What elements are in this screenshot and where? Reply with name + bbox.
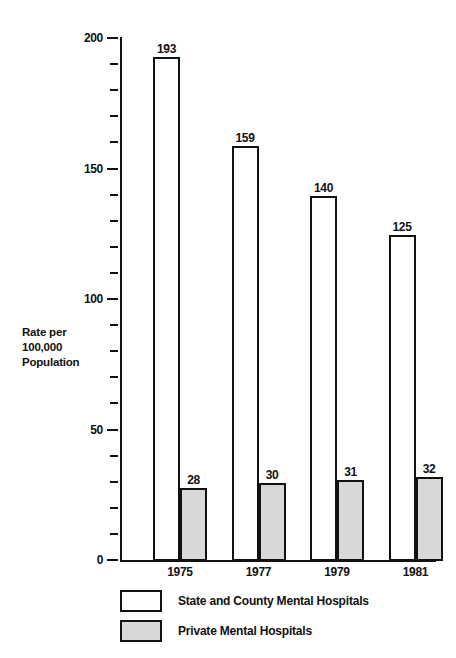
bar-value-label: 32 — [423, 462, 436, 476]
plot-area: 050100150200 Rate per100,000Population 1… — [0, 0, 456, 590]
bar-value-label: 140 — [314, 181, 333, 195]
x-axis-label-1981: 1981 — [386, 565, 446, 579]
bar-value-label: 159 — [235, 131, 254, 145]
bar-1981-series-1: 125 — [389, 235, 416, 561]
legend-label: State and County Mental Hospitals — [178, 594, 369, 608]
bar-1977-series-2: 30 — [259, 483, 286, 561]
legend-label: Private Mental Hospitals — [178, 624, 312, 638]
chart-legend: State and County Mental HospitalsPrivate… — [120, 586, 440, 646]
bar-1979-series-2: 31 — [337, 480, 364, 561]
legend-swatch-gray — [120, 620, 162, 642]
x-axis-label-1977: 1977 — [229, 565, 289, 579]
bar-value-label: 125 — [392, 220, 411, 234]
x-axis-label-1979: 1979 — [307, 565, 367, 579]
chart-page: 050100150200 Rate per100,000Population 1… — [0, 0, 456, 658]
bar-value-label: 30 — [266, 468, 279, 482]
bar-1981-series-2: 32 — [416, 477, 443, 561]
bar-value-label: 193 — [157, 42, 176, 56]
x-axis-tick-labels: 1975197719791981 — [0, 565, 456, 585]
legend-row-2: Private Mental Hospitals — [120, 616, 440, 646]
bar-1975-series-2: 28 — [180, 488, 207, 561]
legend-swatch-white — [120, 590, 162, 612]
legend-row-1: State and County Mental Hospitals — [120, 586, 440, 616]
bars-container: 19328159301403112532 — [0, 0, 456, 561]
bar-value-label: 31 — [344, 465, 357, 479]
x-axis-label-1975: 1975 — [150, 565, 210, 579]
bar-value-label: 28 — [187, 473, 200, 487]
bar-1979-series-1: 140 — [310, 196, 337, 561]
bar-1977-series-1: 159 — [232, 146, 259, 561]
bar-1975-series-1: 193 — [153, 57, 180, 561]
